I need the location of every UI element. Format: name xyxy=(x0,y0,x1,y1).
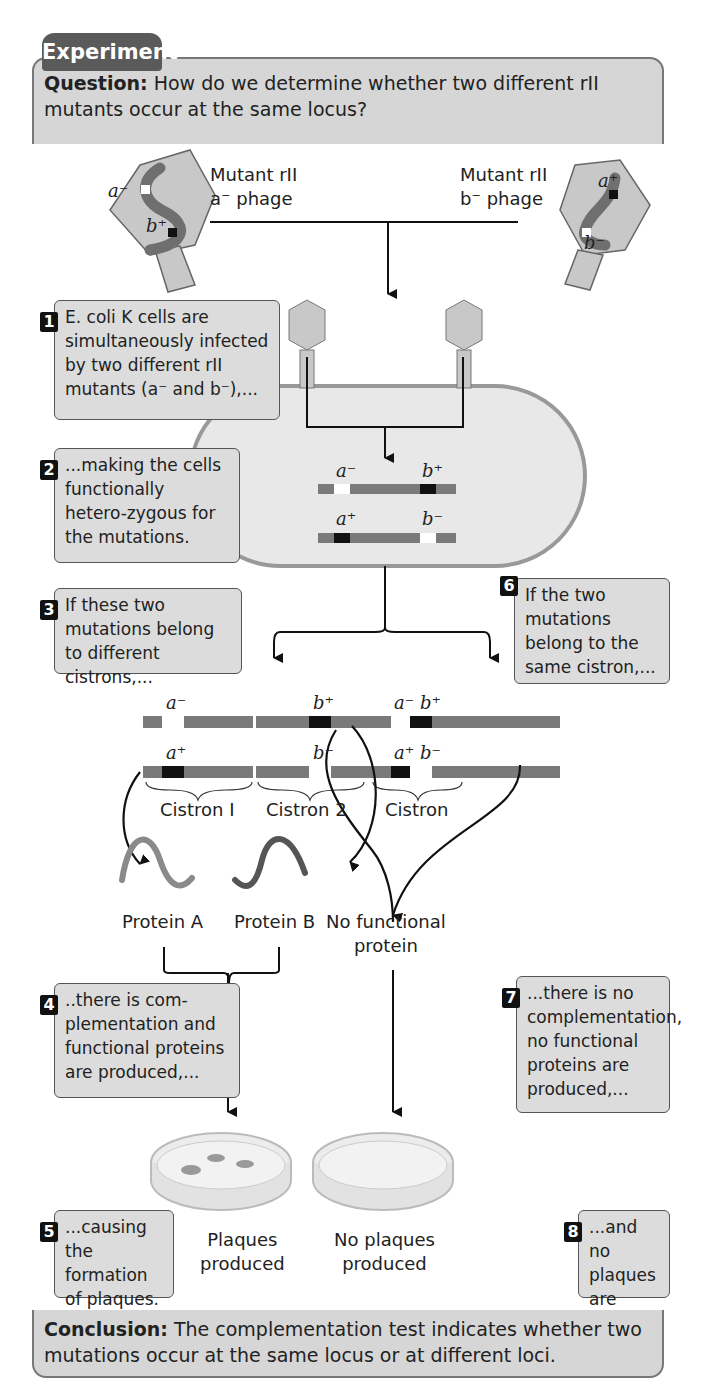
conclusion-label: Conclusion: xyxy=(44,1318,168,1340)
petri-dish-plaques-icon xyxy=(151,1133,291,1210)
cistron-2-label: Cistron 2 xyxy=(266,798,347,822)
step-2-number: 2 xyxy=(40,460,58,480)
left-gene-a-minus: a⁻ xyxy=(166,692,186,713)
protein-b-icon xyxy=(235,839,305,886)
protein-a-label: Protein A xyxy=(122,910,203,934)
step-5-callout: ...causing the formation of plaques. xyxy=(54,1210,174,1298)
phage-left-gene-top: a⁻ xyxy=(108,180,128,201)
cell-gene-a-plus: a⁺ xyxy=(336,508,356,529)
phage-right-gene-top: a⁺ xyxy=(598,170,618,191)
phage-left-gene-bottom: b⁺ xyxy=(146,215,167,236)
step-3-callout: If these two mutations belong to differe… xyxy=(54,588,242,674)
no-plaques-produced-label: No plaquesproduced xyxy=(334,1228,435,1276)
right-gene-bottom: a⁺ b⁻ xyxy=(394,742,441,763)
step-6-number: 6 xyxy=(500,576,518,596)
cell-gene-a-minus: a⁻ xyxy=(336,460,356,481)
left-gene-a-plus: a⁺ xyxy=(166,742,186,763)
step-7-number: 7 xyxy=(502,988,520,1008)
no-functional-protein-label: No functionalprotein xyxy=(326,910,446,958)
experiment-tab: Experiment xyxy=(42,33,162,71)
step-8-callout: ...and no plaques are formed. xyxy=(578,1210,670,1298)
diagram-graphics xyxy=(0,0,706,1400)
phage-right-title: Mutant rIIb⁻ phage xyxy=(460,163,547,211)
step-1-callout: E. coli K cells are simultaneously infec… xyxy=(54,300,280,420)
phage-right-gene-bottom: b⁻ xyxy=(584,232,605,253)
phage-left-title: Mutant rIIa⁻ phage xyxy=(210,163,297,211)
petri-dish-empty-icon xyxy=(313,1133,453,1210)
step-2-callout: ...making the cells functionally hetero-… xyxy=(54,448,240,563)
right-gene-top: a⁻ b⁺ xyxy=(394,692,441,713)
cell-gene-b-plus: b⁺ xyxy=(422,460,443,481)
step-4-number: 4 xyxy=(40,995,58,1015)
step-5-number: 5 xyxy=(40,1222,58,1242)
step-7-callout: ...there is no complementation, no funct… xyxy=(516,976,670,1113)
cistron-1-label: Cistron I xyxy=(160,798,234,822)
cistron-label: Cistron xyxy=(385,798,448,822)
step-1-number: 1 xyxy=(40,312,58,332)
step-3-number: 3 xyxy=(40,600,58,620)
step-8-number: 8 xyxy=(564,1222,582,1242)
cell-gene-b-minus: b⁻ xyxy=(422,508,443,529)
protein-b-label: Protein B xyxy=(234,910,315,934)
left-gene-b-plus: b⁺ xyxy=(313,692,334,713)
left-gene-b-minus: b⁻ xyxy=(313,742,334,763)
step-6-callout: If the two mutations belong to the same … xyxy=(514,578,670,684)
plaques-produced-label: Plaquesproduced xyxy=(200,1228,285,1276)
step-4-callout: ..there is com-plementation and function… xyxy=(54,983,240,1098)
protein-a-icon xyxy=(122,840,192,886)
conclusion: Conclusion: The complementation test ind… xyxy=(44,1316,654,1368)
